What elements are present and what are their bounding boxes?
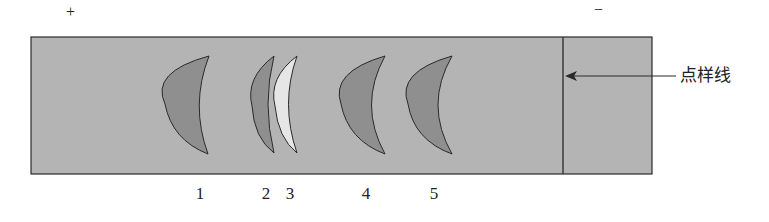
electrophoresis-diagram: [0, 0, 769, 222]
band-label-1: 1: [196, 185, 205, 202]
band-label-5: 5: [430, 185, 439, 202]
sample-line-label: 点样线: [680, 67, 731, 84]
band-label-2: 2: [262, 185, 271, 202]
band-label-3: 3: [286, 185, 295, 202]
band-label-4: 4: [362, 185, 371, 202]
